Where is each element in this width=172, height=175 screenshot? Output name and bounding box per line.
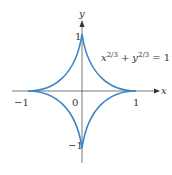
x-axis-arrow-icon: [154, 89, 160, 94]
origin-label: 0: [72, 97, 78, 108]
x-tick-neg1: −1: [14, 97, 29, 108]
y-axis-label: y: [78, 8, 85, 19]
y-tick-1: 1: [75, 31, 81, 42]
y-tick-neg1: −1: [68, 140, 83, 151]
x-axis-label: x: [161, 85, 167, 96]
equation-label: x2/3+y2/3= 1: [101, 51, 170, 63]
x-tick-1: 1: [133, 97, 139, 108]
astroid-diagram: x y 0 −1 1 1 −1 x2/3+y2/3= 1: [0, 0, 172, 175]
y-axis-arrow-icon: [80, 20, 85, 27]
